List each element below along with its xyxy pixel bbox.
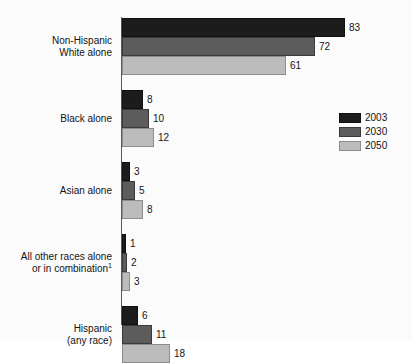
category-label-4: Hispanic (any race) (0, 306, 117, 363)
chart-legend: 200320302050 (339, 111, 409, 153)
bar-2030-cat0 (122, 37, 315, 56)
category-label-text: Hispanic (any race) (67, 323, 117, 346)
bar-2003-cat1 (122, 90, 143, 109)
category-label-0: Non-Hispanic White alone (0, 18, 117, 75)
legend-item-2030: 2030 (339, 125, 409, 138)
legend-swatch-2030 (339, 127, 361, 137)
bar-2003-cat0 (122, 18, 345, 37)
bar-2050-cat0 (122, 56, 286, 75)
category-label-text: Black alone (60, 113, 117, 125)
bar-2030-cat2 (122, 181, 135, 200)
category-label-2: Asian alone (0, 162, 117, 219)
bar-value-label: 72 (319, 42, 330, 52)
bar-2050-cat1 (122, 128, 154, 147)
legend-label-2050: 2050 (365, 141, 387, 151)
bar-value-label: 11 (156, 330, 166, 340)
legend-swatch-2050 (339, 141, 361, 151)
bar-value-label: 3 (134, 167, 140, 177)
bar-2050-cat2 (122, 200, 143, 219)
footnote-marker: 1 (108, 261, 112, 268)
bar-2050-cat4 (122, 344, 170, 363)
bar-2003-cat4 (122, 306, 138, 325)
legend-label-2030: 2030 (365, 127, 387, 137)
bar-value-label: 2 (131, 258, 137, 268)
category-label-text: Asian alone (60, 185, 117, 197)
bar-2003-cat3 (122, 234, 126, 253)
legend-swatch-2003 (339, 113, 361, 123)
bar-value-label: 6 (142, 311, 148, 321)
bar-2050-cat3 (122, 272, 130, 291)
legend-item-2050: 2050 (339, 139, 409, 152)
category-label-text: All other races alone or in combination1 (21, 251, 117, 274)
bar-2030-cat3 (122, 253, 127, 272)
category-label-3: All other races alone or in combination1 (0, 234, 117, 291)
bar-value-label: 5 (139, 186, 145, 196)
bar-value-label: 61 (290, 61, 301, 71)
bar-value-label: 8 (147, 205, 153, 215)
bar-2030-cat4 (122, 325, 152, 344)
bar-value-label: 8 (147, 95, 153, 105)
bar-value-label: 3 (134, 277, 140, 287)
category-label-text: Non-Hispanic White alone (52, 35, 117, 58)
bar-value-label: 12 (158, 133, 169, 143)
category-label-1: Black alone (0, 90, 117, 147)
bar-2030-cat1 (122, 109, 149, 128)
legend-label-2003: 2003 (365, 113, 387, 123)
bar-value-label: 10 (153, 114, 164, 124)
legend-item-2003: 2003 (339, 111, 409, 124)
bar-value-label: 1 (130, 239, 136, 249)
bar-value-label: 83 (349, 23, 360, 33)
bar-2003-cat2 (122, 162, 130, 181)
bar-value-label: 18 (174, 349, 185, 359)
